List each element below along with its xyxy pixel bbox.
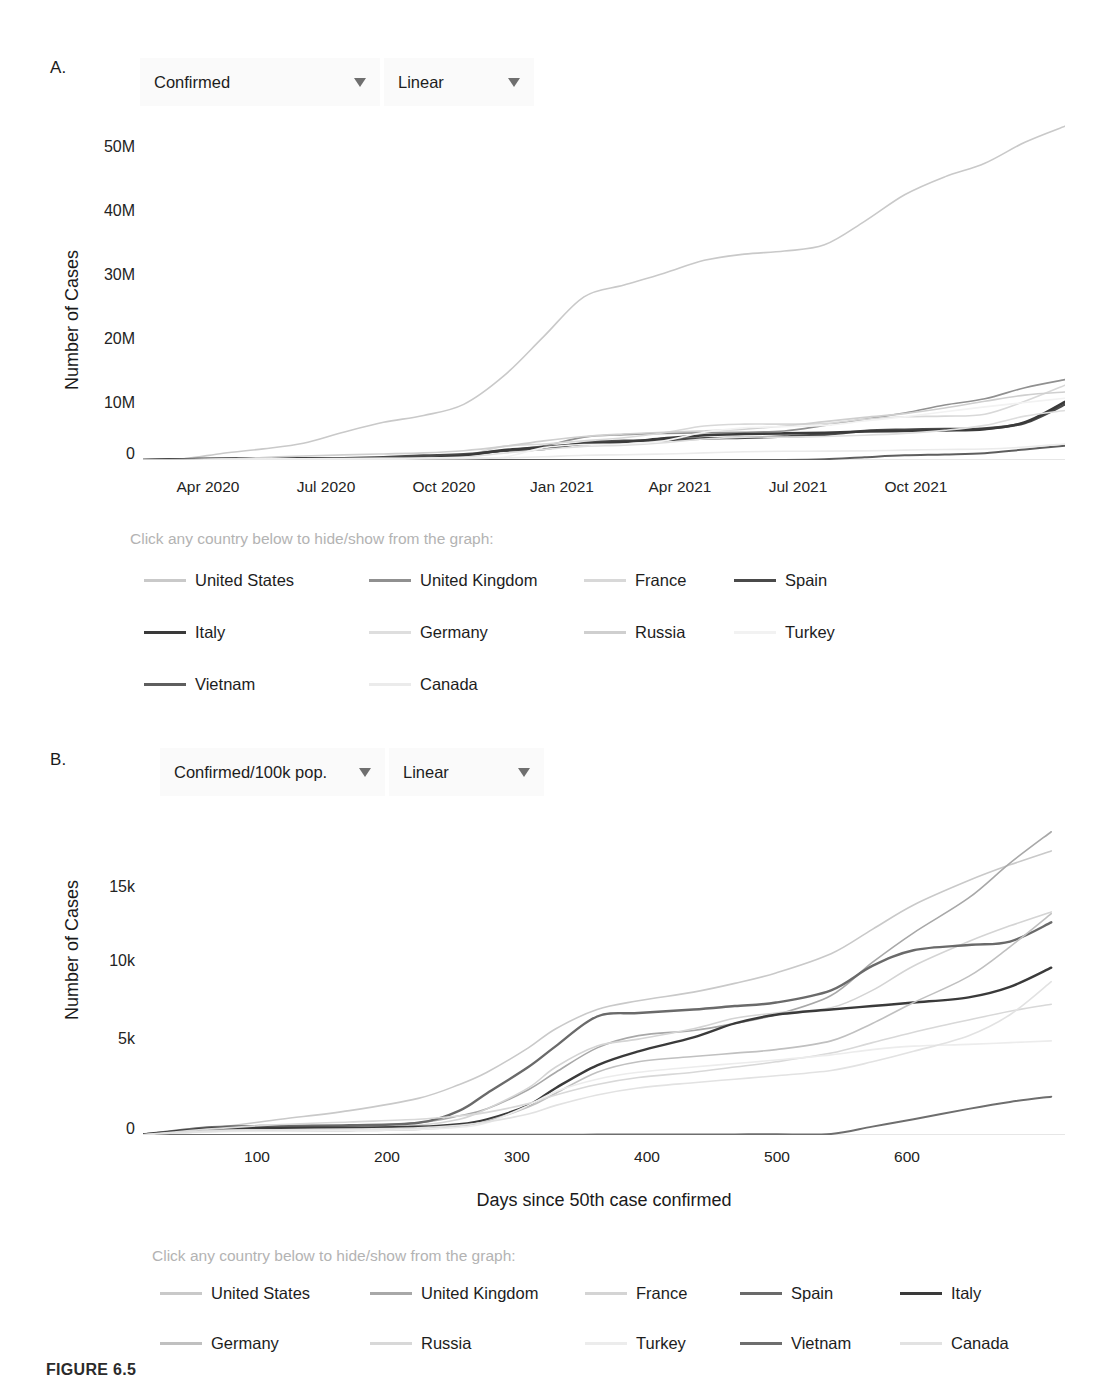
legend-item-spain[interactable]: Spain xyxy=(740,1278,900,1308)
chart-b-ytick-2: 10k xyxy=(40,952,135,970)
chart-a-ytick-1: 10M xyxy=(40,394,135,412)
legend-item-vietnam[interactable]: Vietnam xyxy=(144,669,369,699)
legend-item-label: Turkey xyxy=(785,623,835,642)
legend-swatch-icon xyxy=(144,683,186,686)
legend-swatch-icon xyxy=(369,631,411,634)
legend-item-label: France xyxy=(636,1284,687,1303)
series-line-france xyxy=(143,912,1051,1135)
chart-b-y-axis-title: Number of Cases xyxy=(62,880,83,1020)
legend-swatch-icon xyxy=(900,1292,942,1295)
series-line-united-kingdom xyxy=(143,832,1051,1135)
chart-b-ytick-0: 0 xyxy=(40,1120,135,1138)
chart-a-xtick-4: Apr 2021 xyxy=(620,478,740,496)
chart-a-lines xyxy=(143,120,1065,460)
legend-item-label: Vietnam xyxy=(791,1334,851,1353)
figure-caption: FIGURE 6.5 xyxy=(46,1361,136,1375)
legend-item-united-kingdom[interactable]: United Kingdom xyxy=(370,1278,585,1308)
chart-b-x-axis-title: Days since 50th case confirmed xyxy=(143,1190,1065,1211)
chart-b: Number of Cases 15k 10k 5k 0 100 200 300… xyxy=(0,700,1112,1210)
legend-item-germany[interactable]: Germany xyxy=(160,1328,370,1358)
legend-item-france[interactable]: France xyxy=(585,1278,740,1308)
legend-swatch-icon xyxy=(160,1342,202,1345)
series-line-united-states xyxy=(143,126,1065,460)
panel-a-legend: United StatesUnited KingdomFranceSpainIt… xyxy=(144,565,894,699)
legend-item-label: United States xyxy=(195,571,294,590)
legend-swatch-icon xyxy=(370,1342,412,1345)
panel-b: B. Confirmed/100k pop. Linear Number of … xyxy=(0,700,1112,1375)
legend-swatch-icon xyxy=(160,1292,202,1295)
legend-item-russia[interactable]: Russia xyxy=(584,617,734,647)
legend-item-label: Spain xyxy=(791,1284,833,1303)
series-line-france xyxy=(143,385,1065,460)
legend-item-label: Germany xyxy=(211,1334,279,1353)
legend-item-spain[interactable]: Spain xyxy=(734,565,894,595)
legend-item-germany[interactable]: Germany xyxy=(369,617,584,647)
legend-item-united-kingdom[interactable]: United Kingdom xyxy=(369,565,584,595)
legend-swatch-icon xyxy=(740,1342,782,1345)
chart-b-ytick-1: 5k xyxy=(40,1030,135,1048)
chart-a-ytick-5: 50M xyxy=(40,138,135,156)
legend-item-label: Italy xyxy=(195,623,225,642)
chart-a-xtick-3: Jan 2021 xyxy=(502,478,622,496)
series-line-spain xyxy=(143,922,1051,1134)
legend-item-label: Spain xyxy=(785,571,827,590)
chart-b-xtick-1: 200 xyxy=(347,1148,427,1166)
chart-b-xtick-2: 300 xyxy=(477,1148,557,1166)
chart-a-xtick-0: Apr 2020 xyxy=(148,478,268,496)
chart-b-lines xyxy=(143,830,1065,1135)
legend-item-label: France xyxy=(635,571,686,590)
chart-b-xtick-4: 500 xyxy=(737,1148,817,1166)
chart-b-plot-area xyxy=(143,830,1065,1135)
legend-item-russia[interactable]: Russia xyxy=(370,1328,585,1358)
chart-a-ytick-2: 20M xyxy=(40,330,135,348)
chart-a-plot-area xyxy=(143,120,1065,460)
legend-item-label: Vietnam xyxy=(195,675,255,694)
legend-item-vietnam[interactable]: Vietnam xyxy=(740,1328,900,1358)
legend-swatch-icon xyxy=(370,1292,412,1295)
chart-a-ytick-3: 30M xyxy=(40,266,135,284)
series-line-united-kingdom xyxy=(143,380,1065,460)
panel-b-legend-hint: Click any country below to hide/show fro… xyxy=(152,1247,516,1265)
chart-a-xtick-6: Oct 2021 xyxy=(856,478,976,496)
legend-item-canada[interactable]: Canada xyxy=(369,669,584,699)
legend-item-italy[interactable]: Italy xyxy=(144,617,369,647)
legend-item-italy[interactable]: Italy xyxy=(900,1278,1055,1308)
legend-swatch-icon xyxy=(584,631,626,634)
legend-item-label: Canada xyxy=(420,675,478,694)
chart-b-xtick-3: 400 xyxy=(607,1148,687,1166)
chart-b-xtick-0: 100 xyxy=(217,1148,297,1166)
legend-swatch-icon xyxy=(369,683,411,686)
legend-item-turkey[interactable]: Turkey xyxy=(585,1328,740,1358)
chart-b-ytick-3: 15k xyxy=(40,878,135,896)
chart-a: Number of Cases 50M 40M 30M 20M 10M 0 Ap… xyxy=(0,0,1112,520)
chart-a-xtick-1: Jul 2020 xyxy=(266,478,386,496)
legend-swatch-icon xyxy=(369,579,411,582)
legend-item-label: Canada xyxy=(951,1334,1009,1353)
legend-swatch-icon xyxy=(734,631,776,634)
legend-item-united-states[interactable]: United States xyxy=(144,565,369,595)
legend-item-label: Turkey xyxy=(636,1334,686,1353)
legend-swatch-icon xyxy=(144,631,186,634)
legend-item-canada[interactable]: Canada xyxy=(900,1328,1055,1358)
legend-item-turkey[interactable]: Turkey xyxy=(734,617,894,647)
legend-item-label: United Kingdom xyxy=(420,571,537,590)
chart-b-xtick-5: 600 xyxy=(867,1148,947,1166)
legend-item-france[interactable]: France xyxy=(584,565,734,595)
chart-a-xtick-2: Oct 2020 xyxy=(384,478,504,496)
legend-item-label: Russia xyxy=(421,1334,471,1353)
legend-swatch-icon xyxy=(584,579,626,582)
legend-item-label: Russia xyxy=(635,623,685,642)
legend-swatch-icon xyxy=(734,579,776,582)
legend-item-united-states[interactable]: United States xyxy=(160,1278,370,1308)
series-line-turkey xyxy=(143,1041,1051,1135)
legend-item-label: United Kingdom xyxy=(421,1284,538,1303)
series-line-russia xyxy=(143,1004,1051,1135)
series-line-united-states xyxy=(143,851,1051,1135)
chart-a-xtick-5: Jul 2021 xyxy=(738,478,858,496)
chart-a-ytick-0: 0 xyxy=(40,445,135,463)
panel-a: A. Confirmed Linear Number of Cases 50M … xyxy=(0,0,1112,700)
legend-swatch-icon xyxy=(144,579,186,582)
legend-item-label: Germany xyxy=(420,623,488,642)
legend-item-label: Italy xyxy=(951,1284,981,1303)
legend-item-label: United States xyxy=(211,1284,310,1303)
